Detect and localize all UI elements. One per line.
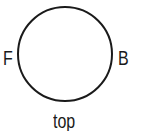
label-top: top (53, 111, 75, 131)
label-front: F (3, 48, 13, 68)
label-back: B (118, 48, 129, 68)
circle-diagram: F B top (0, 0, 160, 131)
circle-shape (0, 0, 160, 131)
